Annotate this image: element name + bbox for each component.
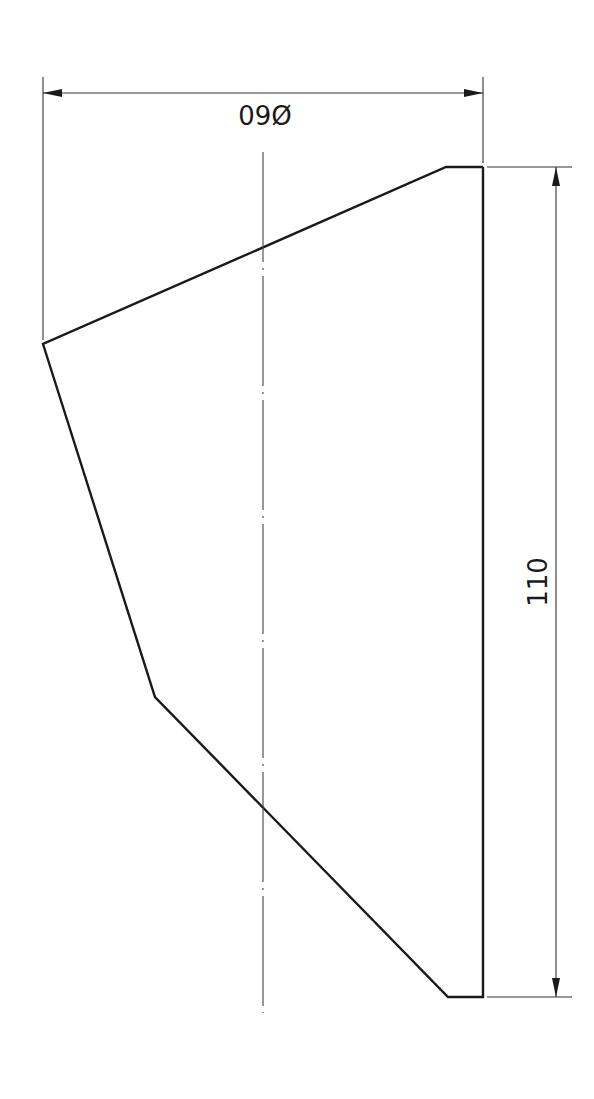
dimension-label-height: 110 — [523, 557, 553, 607]
technical-drawing: Ø60 110 — [0, 0, 594, 1099]
arrowhead-right-icon — [464, 89, 483, 97]
arrowhead-left-icon — [43, 89, 62, 97]
arrowhead-bottom-icon — [552, 978, 560, 997]
dimension-label-diameter: Ø60 — [238, 99, 292, 129]
arrowhead-top-icon — [552, 167, 560, 186]
